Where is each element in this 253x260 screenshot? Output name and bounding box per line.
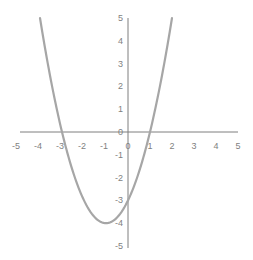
x-tick-label: 3 bbox=[191, 141, 196, 151]
y-tick-label: -1 bbox=[115, 150, 123, 160]
y-tick-label: 1 bbox=[118, 104, 123, 114]
parabola-chart: -5-4-3-2-1012345 543210-1-2-3-4-5 bbox=[0, 0, 253, 260]
x-tick-label: 2 bbox=[169, 141, 174, 151]
y-tick-label: 3 bbox=[118, 59, 123, 69]
x-tick-label: 4 bbox=[213, 141, 218, 151]
y-tick-label: -2 bbox=[115, 173, 123, 183]
x-tick-label: -4 bbox=[34, 141, 42, 151]
x-tick-label: -5 bbox=[12, 141, 20, 151]
x-tick-label: 0 bbox=[125, 141, 130, 151]
x-tick-label: -3 bbox=[56, 141, 64, 151]
y-tick-label: -5 bbox=[115, 241, 123, 251]
y-tick-label: 2 bbox=[118, 81, 123, 91]
parabola-curve bbox=[40, 18, 172, 223]
y-tick-label: 0 bbox=[118, 127, 123, 137]
x-tick-label: -1 bbox=[100, 141, 108, 151]
y-tick-label: -3 bbox=[115, 195, 123, 205]
y-tick-label: 5 bbox=[118, 13, 123, 23]
y-tick-label: 4 bbox=[118, 36, 123, 46]
x-tick-label: -2 bbox=[78, 141, 86, 151]
x-tick-labels: -5-4-3-2-1012345 bbox=[12, 141, 241, 151]
x-tick-label: 5 bbox=[235, 141, 240, 151]
axes bbox=[20, 18, 238, 248]
